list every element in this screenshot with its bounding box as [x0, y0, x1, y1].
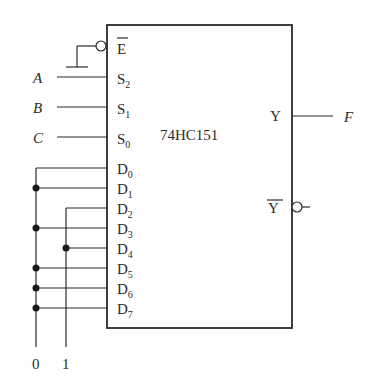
chip-body: [107, 25, 292, 328]
f-output-label: F: [343, 109, 354, 125]
signal-c-label: C: [33, 130, 44, 146]
ybar-inversion-bubble: [292, 202, 302, 212]
enable-label: E: [117, 41, 126, 57]
bus-0-label: 0: [32, 356, 40, 372]
select-inputs: [57, 77, 107, 137]
y-output-label: Y: [270, 108, 281, 124]
signal-b-label: B: [33, 100, 42, 116]
mux-circuit-diagram: E A B C S2 S1 S0 74HC151 D0 D1 D2 D3 D4 …: [0, 0, 368, 386]
enable-inversion-bubble: [96, 41, 106, 51]
chip-name: 74HC151: [160, 127, 218, 143]
signal-a-label: A: [32, 70, 43, 86]
bus-0: [33, 168, 108, 347]
enable-ground: [66, 41, 106, 67]
bus-1: [63, 208, 108, 347]
bus-1-label: 1: [62, 356, 70, 372]
ybar-output-label: Y: [268, 200, 279, 216]
